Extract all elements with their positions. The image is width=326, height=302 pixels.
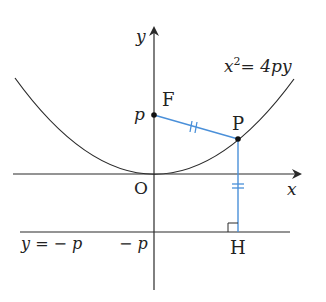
parabola-diagram: y x O x2= 4py F P H p − p y = − p bbox=[0, 0, 326, 302]
point-p-label: P bbox=[232, 113, 244, 134]
right-angle-mark bbox=[228, 223, 238, 232]
point-p bbox=[235, 136, 241, 142]
tick-label-neg-p: − p bbox=[119, 234, 148, 253]
foot-h-label: H bbox=[230, 237, 246, 258]
directrix-label: y = − p bbox=[20, 234, 82, 253]
tick-label-p: p bbox=[134, 104, 145, 124]
focus-label: F bbox=[162, 89, 175, 110]
y-axis-label: y bbox=[135, 26, 146, 46]
equation-label: x2= 4py bbox=[224, 55, 292, 76]
origin-label: O bbox=[134, 178, 148, 198]
x-axis-label: x bbox=[287, 179, 297, 199]
focus-point bbox=[151, 112, 157, 118]
